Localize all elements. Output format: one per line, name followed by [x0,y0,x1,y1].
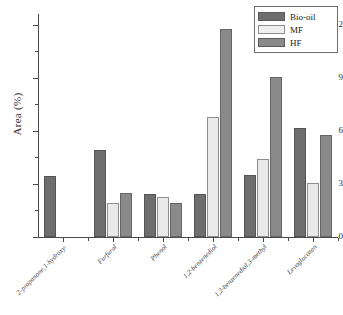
x-tick-minor [288,238,289,241]
bar-hf-group-2 [120,193,132,237]
bar-mf-group-4 [207,117,219,237]
x-tick-minor [188,238,189,241]
bar-hf-group-5 [270,77,282,237]
bar-bio-oil-group-1 [44,176,56,237]
bar-hf-group-6 [320,135,332,237]
y-axis-title: Area (%) [11,69,23,159]
bar-chart: Area (%) 036912 2-propanone,1-hydroxy-Fu… [0,0,343,315]
x-tick-minor [238,238,239,241]
bar-bio-oil-group-2 [94,150,106,237]
legend-label: MF [290,25,303,35]
bar-hf-group-4 [220,29,232,237]
x-tick-major [163,238,164,242]
legend-swatch-icon [258,12,285,21]
bar-bio-oil-group-6 [294,128,306,237]
x-tick-major [63,238,64,242]
legend-swatch-icon [258,25,285,34]
chart-legend: Bio-oilMFHF [254,6,338,53]
bar-bio-oil-group-4 [194,194,206,237]
y-tick-major [33,237,38,238]
x-tick-major [313,238,314,242]
bar-mf-group-3 [157,197,169,237]
bar-mf-group-6 [307,183,319,237]
legend-item-mf[interactable]: MF [258,23,333,36]
bar-bio-oil-group-3 [144,194,156,237]
x-tick-minor [88,238,89,241]
legend-item-hf[interactable]: HF [258,36,333,49]
x-tick-minor [138,238,139,241]
x-tick-major [113,238,114,242]
legend-item-bio-oil[interactable]: Bio-oil [258,10,333,23]
bar-mf-group-5 [257,159,269,237]
x-tick-major [263,238,264,242]
x-tick-major [213,238,214,242]
x-tick-minor [338,238,339,241]
legend-swatch-icon [258,38,285,47]
legend-label: HF [290,38,302,48]
bar-hf-group-3 [170,203,182,238]
bar-mf-group-2 [107,203,119,237]
bar-bio-oil-group-5 [244,175,256,237]
legend-label: Bio-oil [290,12,316,22]
